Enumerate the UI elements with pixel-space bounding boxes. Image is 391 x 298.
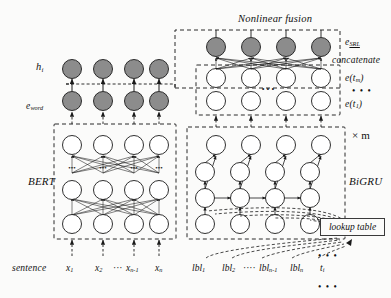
concat-row-ellipsis: • • • [262,85,275,94]
bigru-input-row [196,215,320,234]
fusion-top-stubs [216,30,321,37]
bert-upper-connections [72,156,159,173]
svg-text:• • •: • • • [262,85,275,94]
token-base: lbl [290,263,300,273]
svg-text:•••: ••• [155,164,163,172]
figure-root: ••• ••• ••• ••• [0,0,391,298]
sentence-token-ellipsis: ··· [113,264,123,274]
concat-to-fusion-links [216,58,321,69]
e-srl-label: eSRL [345,38,360,48]
lookup-table-inbound-arrow [346,239,352,246]
e-tm-base: e(t [345,73,356,83]
label-token-lbl1: lbl1 [192,264,205,274]
bert-label: BERT [28,176,55,187]
e-t-ellipsis: • • • [352,87,372,97]
bert-middle-row [63,181,169,200]
bigru-backward-row [196,163,320,182]
nonlinear-fusion-label: Nonlinear fusion [238,14,312,25]
token-sub: n-1 [130,266,138,273]
token-base: lbl [192,263,202,273]
sentence-token-x2: x2 [95,264,102,274]
e-t1-close: ) [359,99,362,109]
label-token-ti: ti [320,264,324,274]
token-sub: n-1 [269,266,277,273]
token-sub: i [323,266,325,273]
token-sub: 1 [202,266,205,273]
token-sub: 2 [232,266,235,273]
ti-upper-ellipsis: • • • [318,252,338,262]
e-tm-close: ) [360,73,363,83]
bigru-top-row [207,136,331,155]
bigru-inter-row-links [205,181,310,189]
label-token-lbln-1: lbln-1 [259,264,277,274]
token-base: lbl [259,263,269,273]
svg-text:•••: ••• [130,164,138,172]
sentence-token-x1: x1 [66,264,73,274]
times-m-text: × m [352,129,370,141]
label-token-lbl2: lbl2 [222,264,235,274]
token-sub: 1 [70,266,73,273]
bert-to-eword-arrows [72,112,159,124]
eword-to-hi-arrows [72,79,159,91]
hi-row [63,60,169,79]
token-base: lbl [222,263,232,273]
label-token-ellipsis: ···· [243,264,256,274]
token-base: ···· [243,263,256,273]
svg-text:•••: ••• [99,164,107,172]
e-word-label: eword [26,102,43,112]
sentence-token-xn-1: xn-1 [126,264,139,274]
fusion-row [207,38,331,57]
token-sub: n [159,266,162,273]
e-srl-subscript: SRL [349,40,359,47]
concat-bottom-row [207,92,331,111]
sentence-to-bert-arrows [72,240,159,256]
lookup-table-box[interactable]: lookup table [320,218,385,236]
e-t1-base: e(t [345,99,356,109]
label-token-lbln: lbln [290,264,303,274]
bigru-to-concat-arrows [216,116,321,127]
h-i-label: hi [36,62,43,73]
concatenate-label: concatenate [332,56,380,66]
token-sub: 2 [99,266,102,273]
token-sub: n [300,266,303,273]
e-t1-label: e(t1) [345,100,362,110]
ti-lower-ellipsis: • • • [318,283,338,293]
e-tm-label: e(tm) [345,74,364,84]
times-m-label: × m [352,130,370,141]
bert-top-row [63,136,169,155]
sentence-token-xn: xn [155,264,162,274]
token-base: ··· [113,263,123,273]
sentence-label: sentence [12,264,46,274]
bert-lower-connections [72,199,159,215]
e-word-subscript: word [30,104,43,111]
bert-input-row [63,215,169,234]
svg-text:•••: ••• [68,164,76,172]
eword-row [63,92,169,111]
bigru-label: BiGRU [349,176,382,187]
h-i-subscript: i [41,66,43,73]
